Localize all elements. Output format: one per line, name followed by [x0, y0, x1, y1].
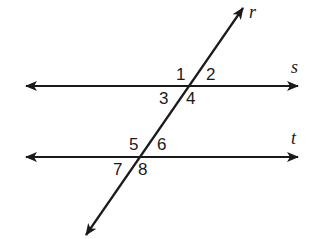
angle-1: 1 [176, 65, 185, 84]
angle-7: 7 [113, 160, 122, 179]
angle-5: 5 [129, 135, 138, 154]
angle-2: 2 [206, 65, 215, 84]
diagram-canvas: r s t 1 2 3 4 5 6 7 8 [0, 0, 332, 239]
angle-4: 4 [186, 89, 195, 108]
angle-6: 6 [157, 135, 166, 154]
angle-3: 3 [159, 89, 168, 108]
label-t: t [291, 128, 297, 148]
label-s: s [291, 57, 298, 77]
angle-8: 8 [138, 160, 147, 179]
label-r: r [249, 2, 257, 22]
transversal-r [86, 8, 243, 235]
